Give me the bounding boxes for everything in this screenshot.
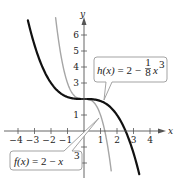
- h-variable: x: [152, 64, 158, 76]
- f-function-label: f(x) = 2 − x: [14, 155, 63, 168]
- h-exponent: 3: [159, 58, 165, 70]
- graph-figure: −4−3−2−11234 13456 x y h(x) = 2 − 1 8 x …: [0, 0, 179, 181]
- y-tick-label: 6: [73, 30, 79, 40]
- h-fraction-denominator: 8: [145, 66, 151, 78]
- x-axis-arrow-icon: [158, 129, 166, 134]
- h-function-callout: h(x) = 2 − 1 8 x 3: [94, 56, 167, 100]
- y-tick-label: 4: [73, 62, 79, 72]
- y-axis-label: y: [79, 9, 86, 19]
- x-axis-label: x: [168, 126, 173, 136]
- y-tick-label: 5: [73, 46, 79, 56]
- x-tick-label: 4: [147, 135, 153, 145]
- x-tick-label: 3: [131, 135, 137, 145]
- h-function-label: h(x) = 2 −: [97, 64, 141, 77]
- x-tick-label: 1: [98, 135, 104, 145]
- x-tick-label: 2: [114, 135, 120, 145]
- y-tick-label: 1: [73, 110, 79, 120]
- f-exponent: 3: [74, 149, 80, 161]
- x-tick-label: −1: [59, 135, 72, 145]
- x-tick-label: −3: [26, 135, 40, 145]
- x-tick-label: −4: [9, 135, 23, 145]
- y-tick-label: 3: [73, 78, 79, 88]
- plot-area: −4−3−2−11234 13456 x y h(x) = 2 − 1 8 x …: [0, 0, 179, 181]
- x-tick-label: −2: [42, 135, 55, 145]
